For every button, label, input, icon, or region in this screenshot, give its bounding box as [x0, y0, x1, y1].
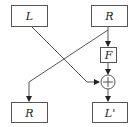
- node-xor: [101, 75, 115, 89]
- feistel-diagram: L R F R L': [0, 0, 132, 127]
- node-r-out-label: R: [24, 107, 33, 120]
- node-f-label: F: [104, 49, 113, 62]
- node-r-in: R: [92, 6, 128, 27]
- node-r-in-label: R: [104, 10, 113, 23]
- node-f: F: [101, 48, 117, 63]
- node-r-out: R: [12, 103, 48, 123]
- node-l-out-label: L': [104, 107, 115, 120]
- edge-r-to-r-out: [29, 30, 108, 101]
- node-l-out: L': [93, 103, 128, 123]
- node-l-in-label: L: [25, 10, 33, 23]
- node-l-in: L: [12, 6, 48, 27]
